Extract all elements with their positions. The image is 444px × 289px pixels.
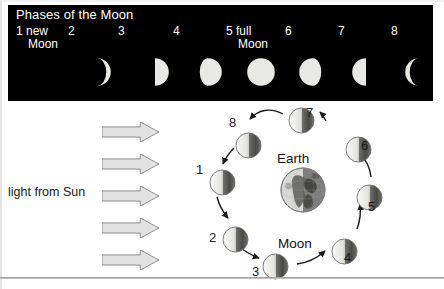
sunlight-arrow-2 <box>102 153 160 175</box>
panel-title: Phases of the Moon <box>16 7 133 22</box>
bottom-rule <box>0 277 444 279</box>
orbit-moon-3 <box>262 253 289 280</box>
orbit-moon-number-5: 5 <box>368 200 375 213</box>
phase-label-text: 8 <box>391 25 433 38</box>
phases-of-the-moon-panel: Phases of the Moon 1 newMoon2345 fullMoo… <box>8 5 433 101</box>
orbit-moon-number-8: 8 <box>229 116 236 129</box>
orbit-moon-number-4: 4 <box>344 251 351 264</box>
earth-label: Earth <box>277 151 309 166</box>
phase-label-text-line2: Moon <box>16 38 82 51</box>
earth-globe-icon <box>280 167 326 213</box>
sunlight-arrow-3 <box>102 185 160 207</box>
phase-label-8: 8 <box>391 25 433 38</box>
moon-label: Moon <box>278 236 312 251</box>
moon-phase-icon-8 <box>404 57 433 87</box>
moon-phase-icon-3 <box>140 57 170 87</box>
phase-label-5: 5 fullMoon <box>226 25 292 51</box>
moon-phases-figure: Phases of the Moon 1 newMoon2345 fullMoo… <box>0 0 444 289</box>
sunlight-arrow-1 <box>102 121 160 143</box>
phase-label-text-line2: Moon <box>226 38 292 51</box>
moon-phase-icon-6 <box>298 57 328 87</box>
sunlight-arrow-4 <box>102 217 160 239</box>
orbit-moon-8 <box>235 132 262 159</box>
moon-phase-icon-4 <box>193 57 223 87</box>
moon-phase-icon-7 <box>351 57 381 87</box>
orbit-diagram: light from Sun Earth Moon <box>0 101 444 289</box>
top-border <box>0 0 444 2</box>
moon-phase-icon-5 <box>246 57 276 87</box>
orbit-moon-2 <box>222 226 249 253</box>
light-from-sun-label: light from Sun <box>8 185 85 199</box>
orbit-moon-1 <box>209 169 236 196</box>
sunlight-arrow-5 <box>102 249 160 271</box>
orbit-moon-number-2: 2 <box>209 231 216 244</box>
orbit-moon-number-1: 1 <box>196 163 203 176</box>
moon-phase-icon-1 <box>22 57 52 87</box>
orbit-moon-number-7: 7 <box>306 106 313 119</box>
orbit-moon-number-6: 6 <box>361 139 368 152</box>
moon-phase-icon-2 <box>82 57 112 87</box>
